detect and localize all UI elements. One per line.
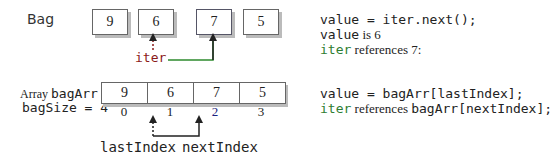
bag-note-line2: value is 6 <box>320 27 381 43</box>
array-index-0: 0 <box>101 104 147 120</box>
value-text: is 6 <box>359 27 381 42</box>
array-label-name: bagArr <box>51 86 98 101</box>
bag-size-label: bagSize = 4 <box>22 100 108 115</box>
iter-label: iter <box>135 50 166 65</box>
array-note-code: value = bagArr[lastIndex]; <box>320 86 524 101</box>
array-cell-0: 9 <box>102 83 148 103</box>
array-note-line1: value = bagArr[lastIndex]; <box>320 86 524 101</box>
last-index-label: lastIndex <box>100 139 176 155</box>
array-label-prefix: Array <box>20 87 51 101</box>
array-cell-2: 7 <box>194 83 240 103</box>
bag-note-line3: iter references 7: <box>320 42 421 58</box>
value-code: value <box>320 27 359 42</box>
iter-code: iter <box>320 42 351 57</box>
bag-note-code: value = iter.next(); <box>320 12 477 27</box>
array-index-3: 3 <box>238 104 284 120</box>
array-index-2: 2 <box>192 104 238 120</box>
array-index-1: 1 <box>147 104 193 120</box>
array-cell-1: 6 <box>148 83 194 103</box>
iter-text: references 7: <box>351 42 421 57</box>
iter-code-2: iter <box>320 101 351 116</box>
bag-note-line1: value = iter.next(); <box>320 12 477 27</box>
array-note-line2: iter references bagArr[nextIndex]; <box>320 101 552 117</box>
next-index-label: nextIndex <box>182 139 258 155</box>
bag-array: 9 6 7 5 <box>101 82 286 104</box>
array-cell-3: 5 <box>240 83 285 103</box>
references-text: references <box>351 101 411 116</box>
bagarr-next-code: bagArr[nextIndex]; <box>411 101 552 116</box>
